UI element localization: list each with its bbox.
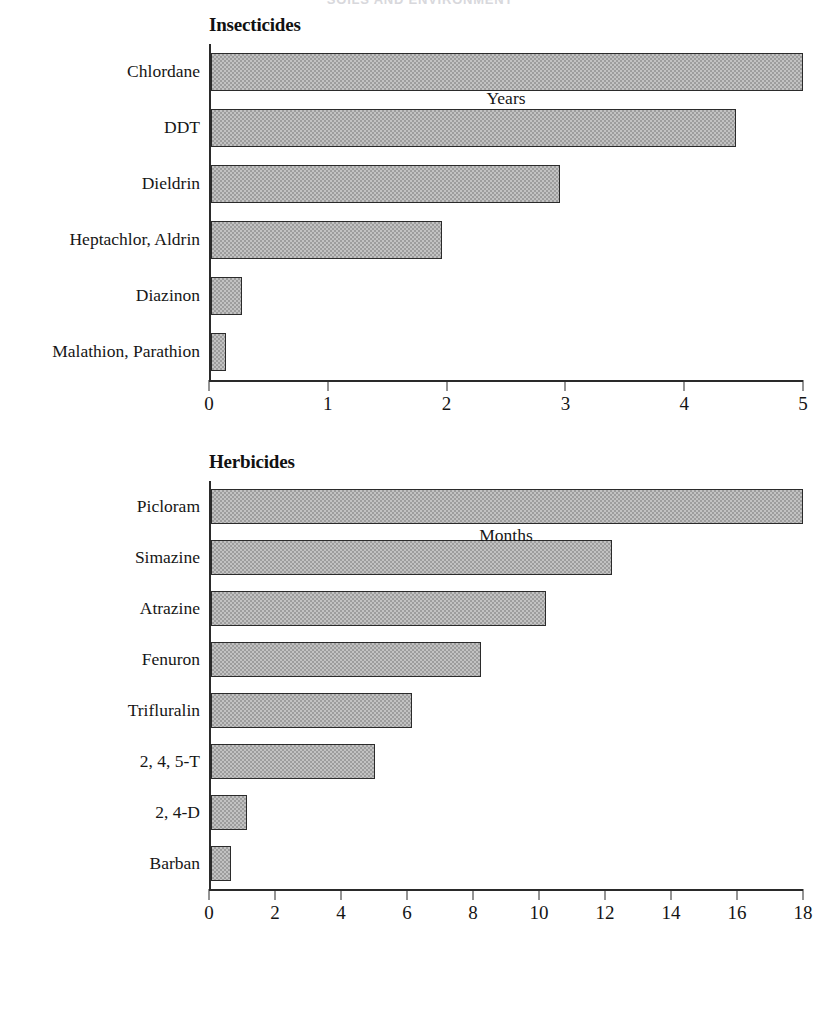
axis-tick bbox=[605, 889, 606, 900]
chart-title-herbicides: Herbicides bbox=[209, 451, 295, 473]
axis-tick-label: 4 bbox=[336, 903, 346, 922]
x-axis-insecticides: 012345 bbox=[209, 380, 803, 381]
bar-row: Atrazine bbox=[211, 583, 803, 634]
bar bbox=[211, 109, 736, 147]
axis-tick bbox=[684, 380, 685, 391]
bar bbox=[211, 846, 231, 881]
bar-row: Barban bbox=[211, 838, 803, 889]
axis-tick bbox=[803, 889, 804, 900]
bar-row: Dieldrin bbox=[211, 156, 803, 212]
bar bbox=[211, 277, 242, 315]
axis-tick-label: 12 bbox=[596, 903, 615, 922]
page-running-head: SOILS AND ENVIRONMENT bbox=[0, 0, 840, 7]
bar bbox=[211, 693, 412, 728]
axis-tick-label: 1 bbox=[323, 394, 333, 413]
category-label: Heptachlor, Aldrin bbox=[69, 231, 211, 249]
axis-tick bbox=[671, 889, 672, 900]
category-label: Malathion, Parathion bbox=[52, 343, 211, 361]
category-label: Diazinon bbox=[136, 287, 211, 305]
axis-tick-label: 0 bbox=[204, 903, 214, 922]
bar bbox=[211, 221, 442, 259]
category-label: 2, 4-D bbox=[155, 804, 211, 822]
bar-row: Diazinon bbox=[211, 268, 803, 324]
axis-tick bbox=[407, 889, 408, 900]
bar bbox=[211, 53, 803, 91]
axis-tick-label: 10 bbox=[530, 903, 549, 922]
bar bbox=[211, 333, 226, 371]
category-label: 2, 4, 5-T bbox=[140, 753, 211, 771]
axis-tick-label: 3 bbox=[561, 394, 571, 413]
bar bbox=[211, 744, 375, 779]
axis-tick-label: 14 bbox=[662, 903, 681, 922]
bar-row: Heptachlor, Aldrin bbox=[211, 212, 803, 268]
plot-area-herbicides: PicloramSimazineAtrazineFenuronTriflural… bbox=[0, 481, 840, 890]
category-label: Dieldrin bbox=[142, 175, 211, 193]
bar bbox=[211, 795, 247, 830]
axis-tick-label: 0 bbox=[204, 394, 214, 413]
category-label: DDT bbox=[164, 119, 211, 137]
axis-tick-label: 6 bbox=[402, 903, 412, 922]
bar bbox=[211, 591, 546, 626]
x-axis-herbicides: 024681012141618 bbox=[209, 889, 803, 890]
plot-area-insecticides: ChlordaneDDTDieldrinHeptachlor, AldrinDi… bbox=[0, 44, 840, 381]
axis-tick bbox=[736, 889, 737, 900]
axis-tick-label: 2 bbox=[442, 394, 452, 413]
axis-tick bbox=[446, 380, 447, 391]
bar-row: Fenuron bbox=[211, 634, 803, 685]
axis-tick-label: 8 bbox=[468, 903, 478, 922]
axis-tick-label: 5 bbox=[798, 394, 808, 413]
axis-tick bbox=[340, 889, 341, 900]
axis-tick bbox=[539, 889, 540, 900]
axis-tick bbox=[327, 380, 328, 391]
bar-row: Malathion, Parathion bbox=[211, 324, 803, 380]
bar-row: 2, 4-D bbox=[211, 787, 803, 838]
category-label: Chlordane bbox=[127, 63, 211, 81]
chart-title-insecticides: Insecticides bbox=[209, 14, 301, 36]
category-label: Fenuron bbox=[142, 651, 211, 669]
figure-herbicides: Herbicides PicloramSimazineAtrazineFenur… bbox=[0, 451, 840, 996]
axis-tick bbox=[274, 889, 275, 900]
axis-tick bbox=[472, 889, 473, 900]
bar-row: Trifluralin bbox=[211, 685, 803, 736]
category-label: Picloram bbox=[137, 498, 211, 516]
axis-tick-label: 2 bbox=[270, 903, 280, 922]
axis-tick bbox=[565, 380, 566, 391]
bar-row: 2, 4, 5-T bbox=[211, 736, 803, 787]
category-label: Barban bbox=[149, 855, 211, 873]
category-label: Trifluralin bbox=[128, 702, 211, 720]
figure-insecticides: Insecticides ChlordaneDDTDieldrinHeptach… bbox=[0, 14, 840, 444]
x-axis-title-insecticides: Years bbox=[209, 88, 803, 109]
axis-tick bbox=[803, 380, 804, 391]
bar bbox=[211, 642, 481, 677]
bar bbox=[211, 165, 560, 203]
axis-tick bbox=[209, 889, 210, 900]
axis-tick bbox=[209, 380, 210, 391]
category-label: Atrazine bbox=[140, 600, 211, 618]
axis-tick-label: 4 bbox=[679, 394, 689, 413]
x-axis-title-herbicides: Months bbox=[209, 525, 803, 546]
category-label: Simazine bbox=[135, 549, 211, 567]
bar bbox=[211, 489, 803, 524]
axis-tick-label: 16 bbox=[727, 903, 746, 922]
axis-tick-label: 18 bbox=[794, 903, 813, 922]
